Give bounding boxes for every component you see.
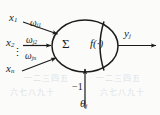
input-ellipsis: ⋮ [12, 47, 23, 58]
summation-symbol: Σ [62, 37, 70, 50]
figure-canvas: 一二三四五 六七八九十 一二三四五 六七八九十 x1 x2 xn ⋮ ωj1 ω… [0, 0, 160, 115]
output-label-yj: yj [124, 28, 131, 40]
input-label-x1: x1 [9, 12, 17, 24]
input-label-xn: xn [6, 63, 14, 75]
threshold-label-thetaj: θj [80, 98, 87, 110]
bias-input-label: −1 [72, 82, 83, 92]
activation-function-symbol: f(·) [90, 38, 103, 49]
weight-label-jn: ωjn [25, 52, 36, 62]
weight-label-j2: ωj2 [26, 36, 37, 46]
weight-label-j1: ωj1 [30, 19, 41, 29]
